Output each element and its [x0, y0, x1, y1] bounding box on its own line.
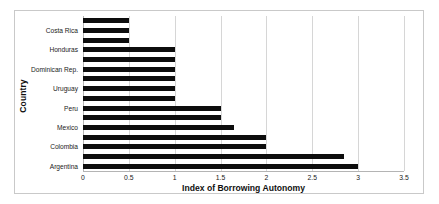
bar: [83, 18, 129, 23]
bar: [83, 115, 221, 120]
x-axis-tick-label: 3: [356, 174, 360, 181]
y-axis-tick-labels: Costa RicaHondurasDominican Rep.UruguayP…: [15, 16, 81, 171]
x-axis-tick-label: 2: [265, 174, 269, 181]
bar: [83, 86, 175, 91]
bar: [83, 28, 129, 33]
bar: [83, 106, 221, 111]
y-axis-tick-label: Argentina: [50, 163, 78, 170]
bar: [83, 135, 266, 140]
x-axis-tick-label: 0.5: [124, 174, 133, 181]
bar-series: [83, 16, 404, 171]
bar: [83, 67, 175, 72]
x-axis-tick-label: 1: [173, 174, 177, 181]
y-axis-tick-label: Uruguay: [53, 85, 78, 92]
bar: [83, 38, 129, 43]
bar: [83, 125, 234, 130]
bar: [83, 164, 358, 169]
x-axis-tick-label: 2.5: [308, 174, 317, 181]
x-axis-line: [83, 171, 404, 172]
x-axis-tick-label: 3.5: [399, 174, 408, 181]
x-axis-tick-label: 1.5: [216, 174, 225, 181]
y-axis-tick-label: Peru: [64, 105, 78, 112]
y-axis-tick-label: Colombia: [50, 143, 78, 150]
bar: [83, 154, 344, 159]
y-axis-tick-label: Dominican Rep.: [31, 66, 78, 73]
y-axis-tick-label: Costa Rica: [46, 27, 78, 34]
y-axis-tick-label: Honduras: [49, 46, 78, 53]
bar: [83, 76, 175, 81]
bar: [83, 96, 175, 101]
bar: [83, 57, 175, 62]
chart-figure: Country Costa RicaHondurasDominican Rep.…: [14, 10, 424, 194]
x-axis-tick-label: 0: [81, 174, 85, 181]
x-axis-title: Index of Borrowing Autonomy: [83, 183, 404, 193]
bar: [83, 47, 175, 52]
bar: [83, 144, 266, 149]
plot-area: [83, 16, 404, 171]
y-axis-tick-label: Mexico: [57, 124, 78, 131]
gridline-3.5: [404, 16, 405, 171]
